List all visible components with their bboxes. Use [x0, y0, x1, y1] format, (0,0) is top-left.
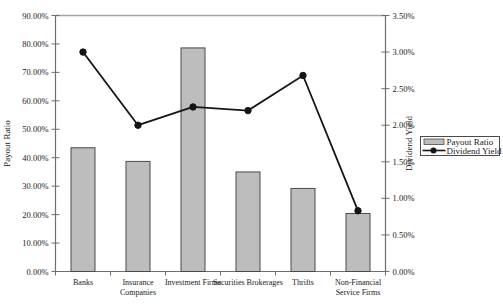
category-label-insurance: InsuranceCompanies	[120, 278, 156, 298]
left-axis-tick-label: 80.00%	[22, 39, 48, 49]
left-axis-tick-label: 50.00%	[22, 124, 48, 134]
marker-non-financial	[355, 208, 361, 214]
right-axis-tick-label: 2.50%	[393, 84, 415, 94]
category-label-thrifts: Thrifts	[292, 278, 314, 287]
right-axis-tick-label: 3.00%	[393, 47, 415, 57]
left-axis-tick-label: 20.00%	[22, 210, 48, 220]
category-label-non-financial: Non-FinancialService Firms	[335, 278, 382, 298]
left-axis-tick-label: 60.00%	[22, 96, 48, 106]
legend-swatch-dividend-yield-marker	[431, 148, 437, 154]
dividend-yield-line	[83, 52, 358, 211]
marker-thrifts	[300, 72, 306, 78]
bar-insurance	[126, 161, 150, 271]
right-axis-tick-label: 3.50%	[393, 11, 415, 21]
left-axis-tick-label: 40.00%	[22, 153, 48, 163]
left-axis-tick-label: 70.00%	[22, 67, 48, 77]
left-axis-tick-label: 30.00%	[22, 181, 48, 191]
chart-canvas: 0.00%10.00%20.00%30.00%40.00%50.00%60.00…	[0, 0, 503, 308]
right-axis-tick-label: 0.50%	[393, 230, 415, 240]
bar-investment-firms	[181, 48, 205, 272]
legend-label-dividend-yield: Dividend Yield	[447, 146, 502, 156]
marker-securities-brokerages	[245, 107, 251, 113]
legend-swatch-payout-ratio	[424, 139, 444, 145]
right-axis-tick-label: 0.00%	[393, 267, 415, 277]
right-axis-title: Dividend Yield	[404, 116, 414, 171]
right-axis-tick-label: 1.00%	[393, 193, 415, 203]
bar-banks	[71, 148, 95, 272]
left-axis-tick-label: 90.00%	[22, 11, 48, 21]
marker-banks	[80, 49, 86, 55]
category-label-banks: Banks	[73, 278, 93, 287]
marker-investment-firms	[190, 104, 196, 110]
bar-non-financial	[346, 213, 370, 271]
marker-insurance	[135, 122, 141, 128]
combo-chart: 0.00%10.00%20.00%30.00%40.00%50.00%60.00…	[0, 0, 503, 308]
left-axis-tick-label: 10.00%	[22, 238, 48, 248]
left-axis-tick-label: 0.00%	[27, 267, 49, 277]
bar-thrifts	[291, 188, 315, 271]
left-axis-title: Payout Ratio	[2, 120, 12, 167]
bar-securities-brokerages	[236, 172, 260, 272]
category-label-securities-brokerages: Securities Brokerages	[213, 278, 283, 287]
